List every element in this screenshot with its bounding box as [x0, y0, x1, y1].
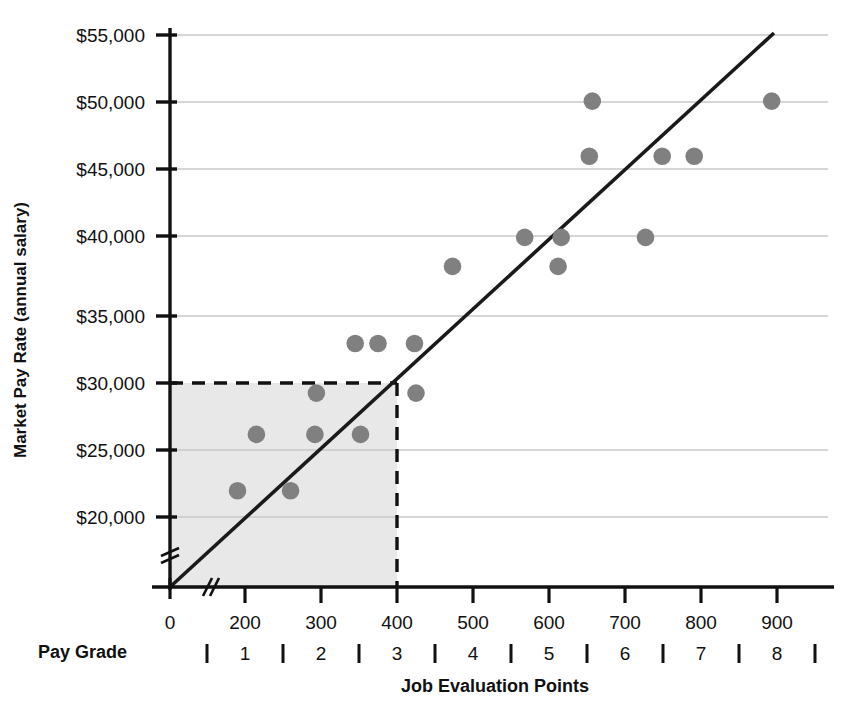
data-point [763, 92, 781, 110]
pay-grade-label: 5 [544, 643, 555, 664]
x-tick-label: 200 [229, 612, 261, 633]
y-axis-title: Market Pay Rate (annual salary) [11, 202, 30, 458]
x-tick-label: 800 [685, 612, 717, 633]
pay-grade-label: 4 [468, 643, 479, 664]
data-point [229, 482, 247, 500]
data-point [306, 426, 324, 444]
scatter-plot-svg: $55,000 $50,000 $45,000 $40,000 $35,000 … [0, 0, 841, 702]
data-point [552, 229, 570, 247]
x-axis-title: Job Evaluation Points [401, 676, 589, 696]
pay-grade-label: 2 [316, 643, 327, 664]
data-point [406, 335, 424, 353]
x-tick-label: 400 [381, 612, 413, 633]
data-point [407, 384, 425, 402]
data-point [584, 92, 602, 110]
data-point [282, 482, 300, 500]
x-tick-label: 900 [761, 612, 793, 633]
data-point [653, 147, 671, 165]
pay-grade-label: 7 [696, 643, 707, 664]
y-tick-label: $30,000 [76, 373, 145, 394]
y-tick-label: $55,000 [76, 25, 145, 46]
x-tick-label: 700 [609, 612, 641, 633]
x-tick-label: 600 [533, 612, 565, 633]
data-point [248, 426, 266, 444]
x-tick-label: 500 [457, 612, 489, 633]
data-point [581, 147, 599, 165]
chart-container: $55,000 $50,000 $45,000 $40,000 $35,000 … [0, 0, 841, 702]
y-tick-label: $40,000 [76, 226, 145, 247]
pay-grade-label: 3 [392, 643, 403, 664]
data-point [516, 229, 534, 247]
x-tick-label: 0 [165, 612, 176, 633]
data-point [308, 384, 326, 402]
data-point [444, 258, 462, 276]
y-tick-label: $35,000 [76, 306, 145, 327]
data-points-layer [229, 92, 781, 499]
data-point [549, 258, 567, 276]
pay-grade-axis-title: Pay Grade [38, 642, 127, 662]
y-tick-label: $25,000 [76, 440, 145, 461]
pay-grade-label: 6 [620, 643, 631, 664]
data-point [637, 229, 655, 247]
y-tick-label: $20,000 [76, 507, 145, 528]
pay-grade-separators [207, 644, 815, 663]
pay-grade-label: 1 [240, 643, 251, 664]
y-tick-label: $50,000 [76, 92, 145, 113]
data-point [685, 147, 703, 165]
x-tick-label: 300 [305, 612, 337, 633]
pay-grade-label: 8 [772, 643, 783, 664]
trend-line [170, 33, 774, 587]
data-point [369, 335, 387, 353]
data-point [346, 335, 364, 353]
y-tick-label: $45,000 [76, 159, 145, 180]
data-point [352, 426, 370, 444]
